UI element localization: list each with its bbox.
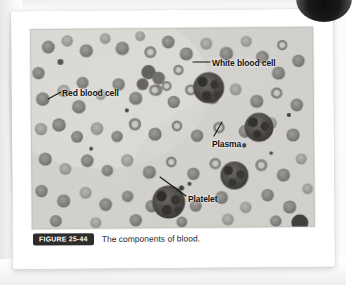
- annotation-label-platelet: Platelet: [188, 194, 217, 204]
- figure-caption-text: The components of blood.: [102, 234, 200, 243]
- annotation-label-plasma: Plasma: [212, 139, 241, 149]
- annotation-label-red-blood-cell: Red blood cell: [62, 88, 119, 98]
- annotation-label-white-blood-cell: White blood cell: [212, 58, 276, 68]
- figure-number-badge: FIGURE 25-44: [33, 233, 94, 245]
- figure-caption-row: FIGURE 25-44 The components of blood.: [33, 232, 200, 245]
